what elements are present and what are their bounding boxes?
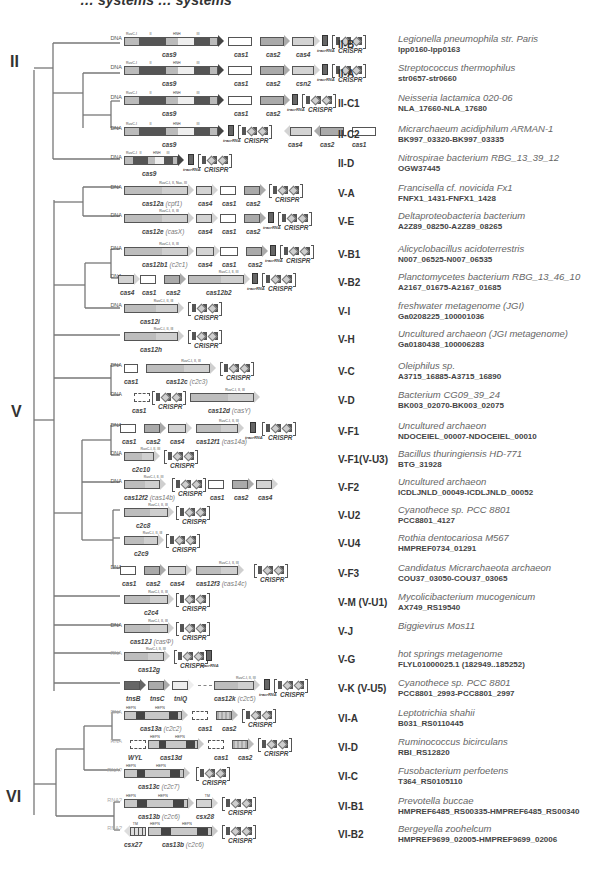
gene-arrow: cas1 bbox=[128, 393, 150, 402]
domain-label: HEPN bbox=[156, 764, 166, 768]
organism-name: Bacillus thuringiensis HD-771 bbox=[398, 448, 522, 459]
gene-name: c2c9 bbox=[134, 550, 148, 557]
gene-name: cas12c bbox=[166, 378, 188, 385]
gene-arrow: cas1 bbox=[124, 364, 144, 373]
gene-name: cas1 bbox=[142, 289, 156, 296]
gene-label: cas4 bbox=[170, 438, 184, 445]
tracrrna-block: tracrRNA bbox=[264, 679, 270, 690]
gene-label: tniQ bbox=[174, 695, 187, 702]
arrow-head-icon bbox=[254, 391, 260, 403]
locus-id: PCC8801_2993-PCC8801_2997 bbox=[398, 689, 515, 698]
gene-label: cas12J (casΦ) bbox=[130, 638, 173, 645]
molecule-label: RNA bbox=[80, 709, 122, 715]
locus-row: DNAcas1RuvC-I, II, IIIcas12c (c2c3)CRISP… bbox=[0, 360, 600, 390]
gene-name: csx28 bbox=[196, 813, 214, 820]
crispr-label: CRISPR bbox=[194, 342, 219, 349]
locus-row: DNARuvC-I, II, IIIcas12iCRISPRV-Ifreshwa… bbox=[0, 300, 600, 330]
organism-name: hot springs metagenome bbox=[398, 648, 503, 659]
crispr-label: CRISPR bbox=[275, 196, 300, 203]
locus-row: tnsBtnsCtniQRuvC-I, II, IIIcas12k (c2c5)… bbox=[0, 677, 600, 707]
gene-name: cas12f1 bbox=[196, 438, 220, 445]
arrow-head-icon bbox=[154, 450, 160, 462]
gene-arrow: cas4 bbox=[196, 186, 218, 195]
arrow-head-icon bbox=[168, 593, 174, 605]
arrow-head-icon bbox=[212, 797, 218, 809]
molecule-label: DNA bbox=[80, 94, 122, 100]
arrow-head-icon bbox=[284, 64, 290, 76]
crispr-label: CRISPR bbox=[268, 285, 293, 292]
gene-label: cas12k (c2c5) bbox=[214, 695, 256, 702]
gene-name: WYL bbox=[128, 754, 142, 761]
gene-name: cas1 bbox=[352, 141, 366, 148]
arrow-head-icon bbox=[188, 245, 194, 257]
molecule-label: DNA bbox=[80, 184, 122, 190]
gene-name: cas2 bbox=[238, 754, 252, 761]
gene-arrow: tnsC bbox=[148, 681, 170, 690]
arrow-head-icon bbox=[160, 422, 166, 434]
arrow-head-icon bbox=[160, 564, 166, 576]
subtype-label: II-C1 bbox=[338, 98, 360, 109]
tracrrna-block: tracrRNA bbox=[252, 273, 258, 284]
domain-label: HEPN bbox=[150, 822, 160, 826]
gene-name: cas4 bbox=[170, 580, 184, 587]
gene-name: cas1 bbox=[210, 494, 224, 501]
gene-arrow: RuvC-I, II, IIIc2c4 bbox=[124, 595, 174, 604]
gene-arrow: TMcsx28 bbox=[196, 799, 218, 808]
organism-name: Uncultured archaeon (JGI metagenome) bbox=[398, 328, 568, 339]
gene-name: cas2 bbox=[320, 141, 334, 148]
domain-label: II bbox=[140, 151, 142, 155]
domain-label: HEPN bbox=[126, 706, 136, 710]
gene-label: c2c4 bbox=[144, 609, 158, 616]
domain-label: RuvC-I, II, III bbox=[148, 619, 168, 623]
gene-arrow: cas4 bbox=[284, 127, 312, 136]
gene-name: cas12g bbox=[138, 666, 160, 673]
locus-id: Ga0208225_100001036 bbox=[398, 312, 484, 321]
subtype-label: II-A bbox=[338, 68, 354, 79]
gene-label: cas1 bbox=[132, 407, 146, 414]
locus-row: RNA?TMcsx27HEPNHEPNcas13b (c2c6)CRISPRVI… bbox=[0, 823, 600, 853]
gene-label: c2c10 bbox=[132, 466, 150, 473]
arrow-head-icon bbox=[168, 506, 174, 518]
molecule-label: DNA bbox=[80, 302, 122, 308]
gene-label: cas2 bbox=[248, 261, 262, 268]
domain-label: RuvC-I bbox=[126, 91, 137, 95]
gene-label: cas4 bbox=[258, 494, 272, 501]
locus-id: OGW37445 bbox=[398, 164, 440, 173]
locus-id: PCC8801_4127 bbox=[398, 516, 455, 525]
molecule-label: DNA bbox=[80, 450, 122, 456]
domain-label: HNH bbox=[173, 32, 181, 36]
gene-name: cas1 bbox=[198, 725, 212, 732]
gene-arrow: tnsB bbox=[124, 681, 146, 690]
domain-label: HEPN bbox=[158, 794, 168, 798]
locus-id: COU37_03050-COU37_03065 bbox=[398, 574, 507, 583]
locus-id: Ga0180438_100006283 bbox=[398, 340, 484, 349]
domain-label: RuvC-I, II, III bbox=[141, 447, 161, 451]
arrow-head-icon bbox=[260, 184, 266, 196]
tracrrna-block: tracrRNA bbox=[206, 650, 212, 661]
gene-alias: (cas14a) bbox=[222, 438, 247, 445]
gene-name: cas4 bbox=[288, 141, 302, 148]
gene-label: cas1 bbox=[198, 725, 212, 732]
gene-arrow: RuvC-I, II, IIIc2c8 bbox=[124, 508, 174, 517]
tracrrna-block: tracrRNA bbox=[270, 245, 276, 256]
gene-label: cas2 bbox=[266, 51, 280, 58]
locus-row: DNARuvC-IIIHNHIIIcas9tracrRNACRISPRcas4c… bbox=[0, 123, 600, 153]
domain-label: RuvC-I bbox=[126, 122, 137, 126]
locus-row: DNAcas4cas1cas2RuvC-I, II, IIIcas12b2tra… bbox=[0, 271, 600, 301]
subtype-label: V-A bbox=[338, 188, 355, 199]
subtype-label: V-G bbox=[338, 654, 355, 665]
molecule-label: DNA bbox=[80, 64, 122, 70]
molecule-label: DNA bbox=[80, 245, 122, 251]
crispr-label: CRISPR bbox=[268, 434, 293, 441]
gene-arrow: RuvC-I, II, IIIcas12i bbox=[124, 304, 184, 313]
arrow-head-icon bbox=[188, 212, 194, 224]
organism-name: Fusobacterium perfoetens bbox=[398, 765, 508, 776]
gene-alias: (c2c6) bbox=[162, 813, 180, 820]
locus-id: RBI_RS12820 bbox=[398, 748, 450, 757]
gene-name: tnsB bbox=[126, 695, 140, 702]
locus-row: RNA?HEPNHEPNcas13c (c2c7)CRISPRVI-CFusob… bbox=[0, 765, 600, 795]
gene-name: cas2 bbox=[234, 494, 248, 501]
subtype-label: II-B bbox=[338, 39, 354, 50]
crispr-array: CRISPR bbox=[280, 245, 314, 257]
molecule-label: DNA bbox=[80, 422, 122, 428]
